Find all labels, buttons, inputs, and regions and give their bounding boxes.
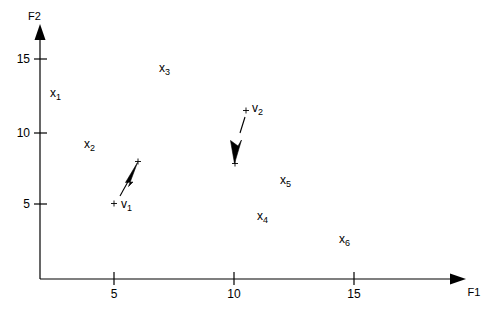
y-tick-label-10: 10 xyxy=(17,126,31,140)
vector-v1-tip-plus xyxy=(135,159,141,165)
vector-v1-group: v1 xyxy=(111,159,141,214)
axes-group: 15 10 5 5 10 15 F2 F1 xyxy=(17,10,481,301)
data-point-x4: x4 xyxy=(257,209,268,225)
vector-v2-group: v2 xyxy=(231,101,264,167)
vector-v2-arrowhead xyxy=(231,140,242,164)
plot-canvas: 15 10 5 5 10 15 F2 F1 x1 x2 x3 x4 xyxy=(0,0,503,309)
data-point-x6: x6 xyxy=(339,232,350,248)
y-tick-label-15: 15 xyxy=(17,52,31,66)
y-axis-label: F2 xyxy=(28,10,41,22)
vector-v2-label: v2 xyxy=(252,101,263,117)
data-point-x2: x2 xyxy=(84,137,95,153)
y-tick-label-5: 5 xyxy=(23,197,30,211)
data-point-x3: x3 xyxy=(159,61,170,77)
data-point-x5: x5 xyxy=(280,173,291,189)
x-axis-arrowhead xyxy=(450,274,466,285)
vector-v2-tail-plus xyxy=(243,108,249,114)
y-axis-arrowhead xyxy=(35,24,46,40)
vector-v2-shaft xyxy=(240,117,245,133)
vector-v1-tail-plus xyxy=(111,201,117,207)
vector-v1-label: v1 xyxy=(121,197,132,213)
scatter-plot-figure: 15 10 5 5 10 15 F2 F1 x1 x2 x3 x4 xyxy=(0,0,503,309)
x-tick-label-15: 15 xyxy=(347,287,361,301)
x-tick-label-5: 5 xyxy=(111,287,118,301)
vector-v2-tip-plus xyxy=(232,161,238,167)
data-point-x1: x1 xyxy=(50,86,61,102)
x-axis-label: F1 xyxy=(468,286,481,298)
x-tick-label-10: 10 xyxy=(227,287,241,301)
data-points-group: x1 x2 x3 x4 x5 x6 xyxy=(50,61,350,248)
